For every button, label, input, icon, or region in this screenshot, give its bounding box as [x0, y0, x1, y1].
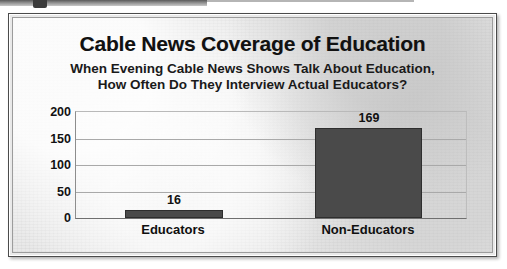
x-category-label: Non-Educators	[321, 222, 414, 237]
bar-value-label: 16	[167, 193, 181, 207]
scan-edge-tail	[207, 0, 414, 2]
chart-subtitle-line-1: When Evening Cable News Shows Talk About…	[13, 61, 492, 77]
chart-title: Cable News Coverage of Education	[13, 32, 492, 56]
plot-area: 16169	[75, 111, 467, 219]
bar-educators	[125, 210, 223, 218]
figure-frame: Cable News Coverage of Education When Ev…	[8, 13, 497, 257]
x-axis-category-labels: EducatorsNon-Educators	[75, 222, 467, 244]
y-tick-label: 150	[31, 132, 71, 146]
bar-non-educators	[315, 128, 422, 218]
scan-edge-artifact	[0, 0, 207, 6]
chart-subtitle: When Evening Cable News Shows Talk About…	[13, 61, 492, 93]
bar-chart: Cable News Coverage of Education When Ev…	[13, 18, 492, 252]
figure-inner-border: Cable News Coverage of Education When Ev…	[12, 17, 493, 253]
y-tick-label: 0	[31, 211, 71, 225]
y-tick-label: 100	[31, 158, 71, 172]
y-axis-tick-labels: 200150100500	[27, 111, 71, 218]
scan-edge-notch	[33, 0, 47, 8]
y-tick-label: 50	[31, 185, 71, 199]
x-category-label: Educators	[141, 222, 205, 237]
chart-subtitle-line-2: How Often Do They Interview Actual Educa…	[13, 77, 492, 93]
bar-value-label: 169	[359, 111, 380, 125]
y-tick-label: 200	[31, 105, 71, 119]
